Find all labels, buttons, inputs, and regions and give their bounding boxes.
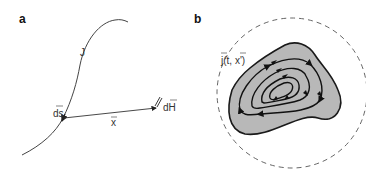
position-vector-arrow [64,108,156,118]
panel-a-label: a [19,12,26,26]
wire-curve [22,20,128,155]
figure: a J ds x dH b [0,0,366,182]
wire-label-J: J [80,47,85,58]
panel-a: a J ds x dH [19,12,177,155]
panel-b-label: b [194,12,201,26]
panel-b: b j(t, x') [194,12,366,168]
current-density-label: j(t, x') [220,55,245,66]
dH-label: dH [163,102,176,113]
dH-arrow-icon [155,97,162,107]
position-label-x: x [111,117,116,128]
current-distribution-region [229,43,341,135]
ds-label: ds [53,108,64,119]
